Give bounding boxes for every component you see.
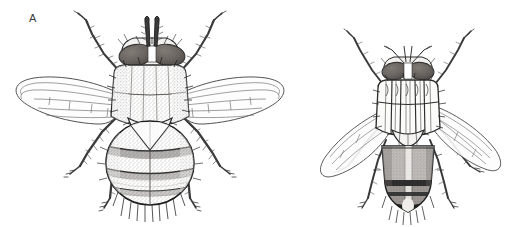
panel-b: B	[300, 0, 519, 227]
wing-right-a	[182, 77, 284, 124]
thorax-a	[107, 57, 193, 128]
thorax-b	[372, 73, 446, 136]
leg-front-right-a	[180, 11, 226, 72]
leg-front-left-a	[74, 11, 120, 72]
abdomen-a	[97, 120, 203, 222]
head-a	[118, 16, 187, 68]
fly-illustration-b	[300, 0, 519, 227]
wing-left-a	[16, 77, 118, 124]
head-b	[381, 46, 435, 82]
leg-front-left-b	[344, 29, 386, 88]
abdomen-b	[373, 144, 444, 225]
leg-front-right-b	[432, 29, 474, 88]
fly-illustration-a	[0, 0, 300, 227]
figure-canvas: A	[0, 0, 519, 227]
panel-a: A	[0, 0, 300, 227]
